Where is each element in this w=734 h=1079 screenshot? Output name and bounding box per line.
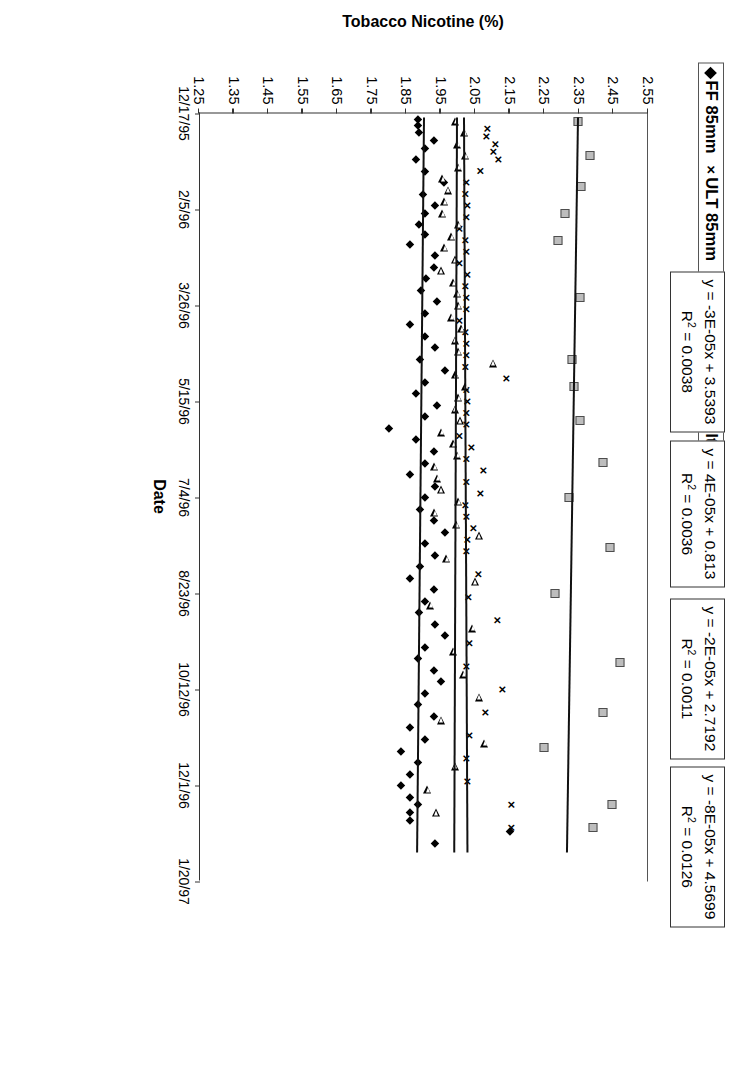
x-axis-tick — [195, 113, 200, 114]
data-point-triangle — [480, 739, 488, 747]
data-point-diamond — [406, 240, 414, 248]
y-axis-tick — [612, 108, 613, 113]
data-point-triangle — [440, 197, 448, 205]
data-point-triangle — [430, 462, 438, 470]
x-axis-tick — [195, 401, 200, 402]
data-point-x: × — [500, 373, 509, 382]
data-point-x: × — [466, 443, 475, 452]
data-point-x: × — [479, 708, 488, 717]
data-point-diamond — [433, 297, 441, 305]
x-axis-tick — [195, 209, 200, 210]
y-axis-tick-label: 1.75 — [364, 76, 380, 104]
data-point-diamond — [432, 251, 440, 259]
data-point-triangle — [468, 624, 476, 632]
legend-label-ff85mm: FF 85mm — [703, 80, 721, 153]
data-point-diamond — [406, 574, 414, 582]
data-point-square — [551, 589, 560, 598]
equation-expression-3: y = -2E-05x + 2.7192 — [702, 606, 719, 751]
data-point-square — [540, 742, 549, 751]
y-axis-tick-label: 2.45 — [605, 76, 621, 104]
x-axis-tick-label: 2/5/96 — [176, 190, 192, 229]
data-point-x: × — [460, 754, 469, 763]
x-axis-tick-label: 10/12/96 — [176, 662, 192, 717]
legend-item-ff85mm: FF 85mm — [702, 68, 721, 153]
y-axis-tick — [543, 108, 544, 113]
data-point-x: × — [478, 466, 487, 475]
data-point-x: × — [492, 155, 501, 164]
y-axis-tick — [370, 108, 371, 113]
data-point-x: × — [467, 523, 476, 532]
y-axis-tick — [439, 108, 440, 113]
legend-item-ult85mm: ×ULT 85mm — [702, 165, 721, 261]
x-axis-tick-label: 3/26/96 — [176, 282, 192, 329]
data-point-square — [599, 458, 608, 467]
data-point-square — [599, 708, 608, 717]
data-point-triangle — [447, 313, 455, 321]
equation-box-2: y = 4E-05x + 0.813 R2 = 0.0036 — [670, 440, 725, 587]
equation-r2-1: R2 = 0.0038 — [676, 279, 699, 424]
data-point-square — [606, 542, 615, 551]
equation-r2-4: R2 = 0.0126 — [676, 774, 699, 919]
plot-top-border — [647, 111, 648, 881]
data-point-diamond — [441, 631, 449, 639]
y-axis-tick-label: 2.25 — [536, 76, 552, 104]
data-point-diamond — [385, 424, 393, 432]
y-axis-tick — [647, 108, 648, 113]
data-point-triangle — [489, 359, 497, 367]
x-axis-tick-label: 1/20/97 — [176, 858, 192, 905]
equation-box-4: y = -8E-05x + 4.5699 R2 = 0.0126 — [670, 766, 725, 927]
data-point-x: × — [497, 685, 506, 694]
x-axis-tick-label: 12/1/96 — [176, 762, 192, 809]
data-point-diamond — [432, 201, 440, 209]
data-point-diamond — [432, 620, 440, 628]
x-axis-tick — [195, 785, 200, 786]
data-point-triangle — [437, 716, 445, 724]
data-point-diamond — [421, 493, 429, 501]
data-point-diamond — [406, 320, 414, 328]
data-point-x: × — [480, 132, 489, 141]
data-point-triangle — [471, 577, 479, 585]
data-point-triangle — [437, 266, 445, 274]
y-axis-tick — [232, 108, 233, 113]
data-point-square — [561, 208, 570, 217]
data-point-diamond — [406, 816, 414, 824]
equation-r2-3: R2 = 0.0011 — [676, 606, 699, 751]
data-point-diamond — [397, 781, 405, 789]
data-point-diamond — [406, 723, 414, 731]
data-point-square — [616, 658, 625, 667]
x-axis-tick — [195, 881, 200, 882]
data-point-triangle — [439, 174, 447, 182]
data-point-diamond — [406, 793, 414, 801]
legend-label-ult85mm: ULT 85mm — [703, 177, 721, 261]
diamond-marker-icon — [702, 68, 721, 77]
y-axis-tick-label: 1.85 — [398, 76, 414, 104]
data-point-triangle — [475, 531, 483, 539]
data-point-x: × — [505, 823, 514, 832]
data-point-triangle — [433, 474, 441, 482]
data-point-triangle — [426, 601, 434, 609]
data-point-diamond — [406, 769, 414, 777]
plot-area: 2.552.452.352.252.152.051.951.851.751.65… — [199, 112, 648, 880]
y-axis-tick-label: 2.05 — [467, 76, 483, 104]
data-point-x: × — [474, 489, 483, 498]
data-point-diamond — [441, 528, 449, 536]
x-axis-tick — [195, 497, 200, 498]
data-point-diamond — [433, 401, 441, 409]
data-point-square — [554, 235, 563, 244]
data-point-x: × — [505, 800, 514, 809]
data-point-triangle — [432, 808, 440, 816]
data-point-triangle — [456, 416, 464, 424]
x-axis-tick-label: 12/17/95 — [176, 86, 192, 141]
x-axis-tick — [195, 593, 200, 594]
x-axis-tick-label: 7/4/96 — [176, 478, 192, 517]
data-point-diamond — [421, 539, 429, 547]
data-point-triangle — [437, 428, 445, 436]
data-point-x: × — [474, 166, 483, 175]
data-point-diamond — [437, 677, 445, 685]
data-point-diamond — [421, 458, 429, 466]
data-point-square — [607, 800, 616, 809]
y-axis-tick-label: 1.95 — [433, 76, 449, 104]
x-axis-tick — [195, 305, 200, 306]
data-point-diamond — [430, 666, 438, 674]
y-axis-tick-label: 1.25 — [191, 76, 207, 104]
